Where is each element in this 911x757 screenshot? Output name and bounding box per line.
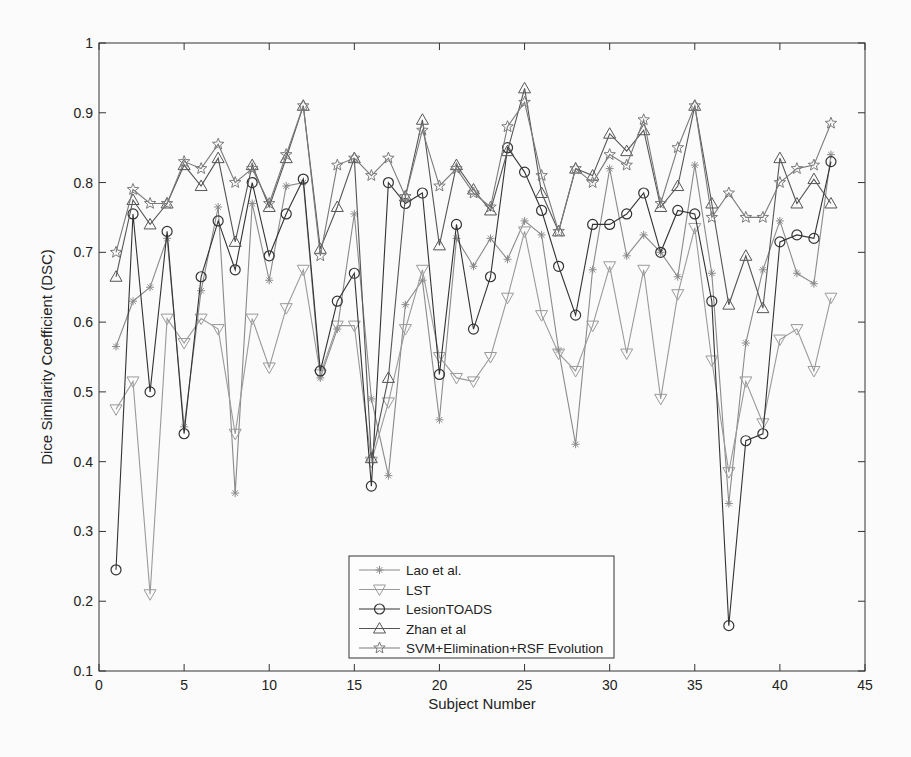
line-chart: 051015202530354045 0.10.20.30.40.50.60.7… xyxy=(0,0,911,757)
y-tick-label: 0.7 xyxy=(74,244,94,260)
asterisk-marker-icon xyxy=(376,566,384,574)
asterisk-marker-icon xyxy=(129,297,137,305)
x-tick-label: 45 xyxy=(857,677,873,693)
x-tick-label: 35 xyxy=(687,677,703,693)
y-tick-label: 0.9 xyxy=(74,105,94,121)
y-tick-label: 1 xyxy=(85,35,93,51)
asterisk-marker-icon xyxy=(214,203,222,211)
asterisk-marker-icon xyxy=(435,416,443,424)
asterisk-marker-icon xyxy=(759,266,767,274)
asterisk-marker-icon xyxy=(487,234,495,242)
asterisk-marker-icon xyxy=(231,489,239,497)
legend-label: SVM+Elimination+RSF Evolution xyxy=(406,641,603,656)
asterisk-marker-icon xyxy=(674,273,682,281)
asterisk-marker-icon xyxy=(504,255,512,263)
series-lst xyxy=(110,223,837,600)
asterisk-marker-icon xyxy=(742,339,750,347)
y-tick-label: 0.3 xyxy=(74,523,94,539)
x-tick-label: 40 xyxy=(772,677,788,693)
x-tick-label: 20 xyxy=(432,677,448,693)
y-tick-label: 0.4 xyxy=(74,454,94,470)
asterisk-marker-icon xyxy=(623,252,631,260)
y-tick-label: 0.5 xyxy=(74,384,94,400)
x-tick-label: 25 xyxy=(517,677,533,693)
legend: Lao et al.LSTLesionTOADSZhan et alSVM+El… xyxy=(349,556,614,658)
asterisk-marker-icon xyxy=(146,283,154,291)
asterisk-marker-icon xyxy=(112,343,120,351)
legend-label: LST xyxy=(406,583,431,598)
asterisk-marker-icon xyxy=(521,217,529,225)
asterisk-marker-icon xyxy=(401,301,409,309)
series-line xyxy=(116,102,831,256)
triangle-down-marker-icon xyxy=(110,405,122,416)
asterisk-marker-icon xyxy=(793,269,801,277)
x-axis-label: Subject Number xyxy=(428,695,536,712)
asterisk-marker-icon xyxy=(265,276,273,284)
asterisk-marker-icon xyxy=(197,287,205,295)
asterisk-marker-icon xyxy=(691,161,699,169)
asterisk-marker-icon xyxy=(589,266,597,274)
legend-label: Zhan et al xyxy=(406,622,466,637)
y-tick-label: 0.2 xyxy=(74,593,94,609)
asterisk-marker-icon xyxy=(248,199,256,207)
asterisk-marker-icon xyxy=(469,262,477,270)
x-tick-label: 15 xyxy=(347,677,363,693)
asterisk-marker-icon xyxy=(384,472,392,480)
asterisk-marker-icon xyxy=(640,231,648,239)
asterisk-marker-icon xyxy=(572,440,580,448)
triangle-down-marker-icon xyxy=(467,377,479,388)
x-tick-label: 30 xyxy=(602,677,618,693)
asterisk-marker-icon xyxy=(725,500,733,508)
legend-label: Lao et al. xyxy=(406,563,462,578)
asterisk-marker-icon xyxy=(538,231,546,239)
asterisk-marker-icon xyxy=(810,280,818,288)
star-marker-icon xyxy=(825,117,837,128)
series-layer xyxy=(110,82,837,630)
x-tick-label: 5 xyxy=(180,677,188,693)
series-svm-elimination-rsf-evolution xyxy=(110,96,836,260)
y-axis-label: Dice Similarity Coefficient (DSC) xyxy=(38,249,55,465)
y-tick-label: 0.8 xyxy=(74,175,94,191)
x-tick-label: 10 xyxy=(261,677,277,693)
y-tick-label: 0.6 xyxy=(74,314,94,330)
legend-label: LesionTOADS xyxy=(406,602,492,617)
series-line xyxy=(116,88,831,458)
asterisk-marker-icon xyxy=(282,182,290,190)
x-tick-label: 0 xyxy=(95,677,103,693)
asterisk-marker-icon xyxy=(708,269,716,277)
asterisk-marker-icon xyxy=(776,217,784,225)
asterisk-marker-icon xyxy=(606,165,614,173)
y-tick-label: 0.1 xyxy=(74,663,94,679)
